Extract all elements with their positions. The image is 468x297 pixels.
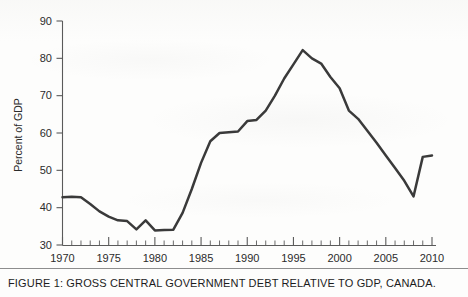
- x-tick-label: 1995: [281, 252, 305, 264]
- line-chart: 30405060708090 1970197519801985199019952…: [0, 0, 468, 268]
- y-tick-label: 30: [40, 239, 52, 251]
- figure-caption-bar: FIGURE 1: GROSS CENTRAL GOVERNMENT DEBT …: [0, 268, 468, 297]
- y-axis-tick-labels: 30405060708090: [40, 15, 52, 251]
- x-tick-label: 1985: [189, 252, 213, 264]
- figure-caption-text: FIGURE 1: GROSS CENTRAL GOVERNMENT DEBT …: [8, 277, 436, 289]
- y-tick-label: 40: [40, 201, 52, 213]
- y-tick-label: 80: [40, 52, 52, 64]
- data-series-line: [63, 50, 433, 230]
- y-axis-ticks: [57, 21, 63, 245]
- x-tick-label: 2010: [420, 252, 444, 264]
- x-tick-label: 1970: [50, 252, 74, 264]
- x-axis-tick-labels: 197019751980198519901995200020052010: [50, 252, 444, 264]
- y-axis-title: Percent of GDP: [12, 98, 24, 172]
- x-tick-label: 1990: [235, 252, 259, 264]
- y-tick-label: 60: [40, 127, 52, 139]
- x-tick-label: 2005: [374, 252, 398, 264]
- y-tick-label: 70: [40, 89, 52, 101]
- y-tick-label: 90: [40, 15, 52, 27]
- y-tick-label: 50: [40, 164, 52, 176]
- figure-container: 30405060708090 1970197519801985199019952…: [0, 0, 468, 297]
- x-tick-label: 2000: [327, 252, 351, 264]
- x-tick-label: 1975: [96, 252, 120, 264]
- chart-plot-area: 30405060708090 1970197519801985199019952…: [0, 0, 468, 268]
- x-tick-label: 1980: [143, 252, 167, 264]
